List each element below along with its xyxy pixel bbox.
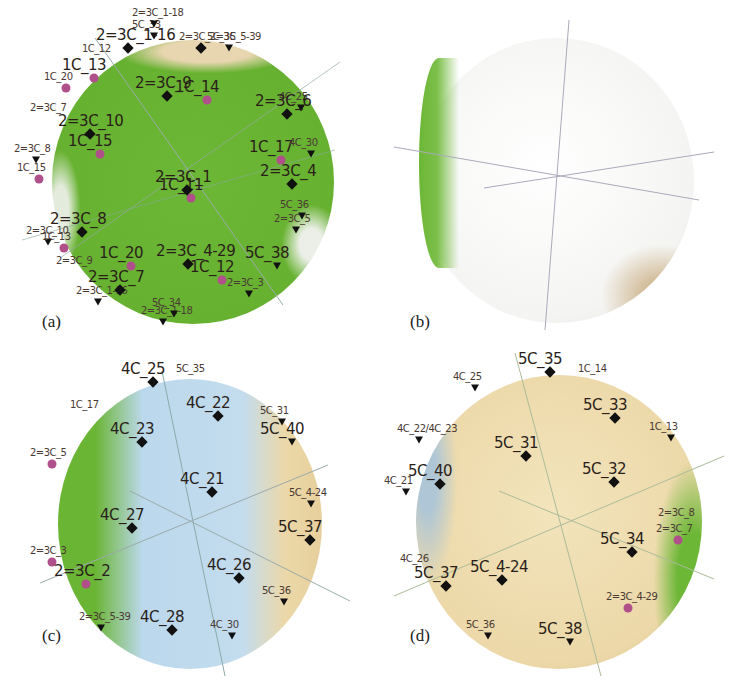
node-label: 4C_26 [400,553,429,564]
triangle-marker-icon [288,439,296,446]
node-label: 4C_28 [140,608,184,626]
triangle-marker-icon [307,501,315,508]
caption-c: (c) [42,626,61,646]
node-label: 2=3C_5 [30,447,66,458]
triangle-marker-icon [402,489,410,496]
node-label: 2=3C_1 [155,168,211,186]
node-label: 5C_36 [280,199,309,210]
node-label: 1C_14 [578,363,607,374]
triangle-marker-icon [280,599,288,606]
pink-circle-marker-icon [62,84,71,93]
pink-circle-marker-icon [96,150,105,159]
pink-circle-marker-icon [203,96,212,105]
node-label: 4C_30 [210,619,239,630]
pink-circle-marker-icon [218,276,227,285]
node-label: 5C_35 [176,363,205,374]
node-label: 5C_34 [600,530,644,548]
node-label: 1C_17 [70,399,99,410]
node-label: 4C_26 [207,556,251,574]
triangle-marker-icon [225,45,233,52]
node-label: 5C_36 [466,619,495,630]
node-label: 2=3C_8 [50,210,106,228]
triangle-marker-icon [159,319,167,326]
node-label: 4C_22/4C_23 [397,423,457,434]
node-label: 2=3C_9 [135,74,191,92]
node-label: 4C_23 [110,420,154,438]
caption-a: (a) [42,312,61,332]
node-label: 2=3C_4-29 [156,242,235,260]
node-label: 5C_32 [582,460,626,478]
triangle-marker-icon [170,311,178,318]
node-label: 1C_20 [44,71,73,82]
node-label: 2=3C_9 [56,255,92,266]
triangle-marker-icon [298,213,306,220]
triangle-marker-icon [273,263,281,270]
node-label: 2=3C_3 [30,545,66,556]
node-label: 5C_38 [538,620,582,638]
triangle-marker-icon [97,625,105,632]
pink-circle-marker-icon [674,536,683,545]
pink-circle-marker-icon [82,580,91,589]
panel-b [369,0,738,341]
node-label: 5C_37 [414,564,458,582]
triangle-marker-icon [667,435,675,442]
node-label: 5C_4-24 [289,487,327,498]
node-label: 5C_37 [278,518,322,536]
node-label: 5C_31 [260,405,289,416]
caption-d: (d) [410,626,430,646]
node-label: 4C_22 [186,394,230,412]
node-label: 1C_12 [190,258,234,276]
pink-circle-marker-icon [60,244,69,253]
triangle-marker-icon [245,291,253,298]
triangle-marker-icon [471,385,479,392]
triangle-marker-icon [228,633,236,640]
node-label: 2=3C_1-16 [96,26,175,44]
node-label: 2=3C_7 [88,268,144,286]
sphere-b [419,38,694,323]
node-label: 5C_33 [583,396,627,414]
pink-circle-marker-icon [187,194,196,203]
pink-circle-marker-icon [48,460,57,469]
node-label: 1C_13 [649,421,678,432]
node-label: 5C_31 [494,434,538,452]
pink-circle-marker-icon [35,175,44,184]
node-label: 4C_25 [453,371,482,382]
pink-circle-marker-icon [90,74,99,83]
node-label: 2=3C_6 [255,92,311,110]
node-label: 2=3C_2 [54,562,110,580]
node-label: 5C_40 [260,420,304,438]
node-label: 2=3C_3 [227,277,263,288]
triangle-marker-icon [566,639,574,646]
node-label: 5C_40 [408,462,452,480]
node-label: 5C_35 [518,350,562,368]
node-label: 5C_34 [152,297,181,308]
triangle-marker-icon [307,151,315,158]
node-label: 2=3C_8 [14,143,50,154]
node-label: 2=3C_5-39 [79,611,130,622]
green-edge-b [419,58,459,268]
triangle-marker-icon [484,633,492,640]
node-label: 2=3C_2=3C_5-39 [179,31,261,42]
node-label: 5C_4-24 [470,558,528,576]
node-label: 4C_21 [180,470,224,488]
node-label: 5C_38 [245,244,289,262]
node-label: 4C_27 [100,506,144,524]
triangle-marker-icon [415,437,423,444]
pink-circle-marker-icon [624,604,633,613]
node-label: 2=3C_4-29 [606,591,657,602]
node-label: 1C_20 [99,244,143,262]
node-label: 2=3C_4 [260,162,316,180]
triangle-marker-icon [292,227,300,234]
node-label: 2=3C_7 [656,523,692,534]
node-label: 4C_30 [289,137,318,148]
node-label: 2=3C_10 [58,112,123,130]
caption-b: (b) [410,312,430,332]
node-label: 4C_21 [384,475,413,486]
node-label: 1C_17 [249,138,293,156]
node-label: 1C_12 [82,43,111,54]
node-label: 2=3C_8 [658,507,694,518]
node-label: 1C_13 [42,231,71,242]
node-label: 4C_25 [121,360,165,378]
node-label: 5C_36 [262,585,291,596]
triangle-marker-icon [94,299,102,306]
